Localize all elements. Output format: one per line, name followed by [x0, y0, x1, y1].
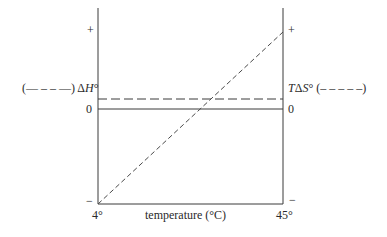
left-zero-tick: 0 [86, 102, 92, 116]
t-delta-s-legend: TΔS° (– – – – –) [288, 81, 366, 95]
right-minus-tick: − [289, 193, 296, 207]
x-end-tick: 45° [276, 208, 293, 222]
right-plus-tick: + [288, 23, 295, 37]
x-axis-title: temperature (°C) [145, 208, 226, 222]
t-delta-s-legend-suffix: ° (– – – – –) [308, 81, 366, 95]
left-minus-tick: − [86, 194, 93, 208]
delta-h-legend-prefix: (— – – —) Δ [22, 81, 85, 95]
t-delta-s-line [98, 32, 283, 204]
right-zero-tick: 0 [288, 102, 294, 116]
left-plus-tick: + [87, 23, 94, 37]
t-delta-s-legend-var: T [288, 81, 295, 95]
delta-h-legend-suffix: ° [94, 81, 99, 95]
diagram-canvas [0, 0, 387, 237]
delta-h-legend-var: H [85, 81, 94, 95]
x-start-tick: 4° [92, 208, 103, 222]
delta-h-legend: (— – – —) ΔH° [22, 81, 99, 95]
